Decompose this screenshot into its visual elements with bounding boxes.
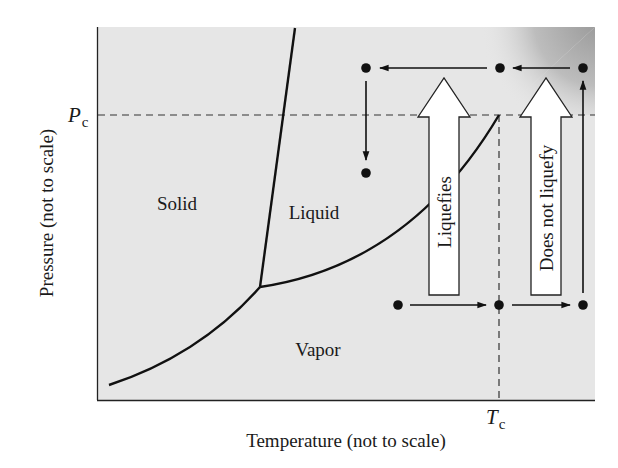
- does-not-liquefy-label: Does not liquefy: [536, 144, 557, 271]
- y-axis-label: Pressure (not to scale): [36, 129, 58, 297]
- path-dot: [361, 168, 371, 178]
- x-axis-label: Temperature (not to scale): [246, 430, 446, 452]
- path-dot: [494, 300, 504, 310]
- region-vapor-label: Vapor: [295, 339, 341, 360]
- tc-marker: Tc: [486, 405, 506, 432]
- liquefies-label: Liquefies: [434, 176, 455, 248]
- pc-marker: Pc: [67, 103, 89, 130]
- path-dot: [578, 63, 588, 73]
- path-dot: [393, 300, 403, 310]
- path-dot: [361, 63, 371, 73]
- region-liquid-label: Liquid: [289, 202, 340, 223]
- region-solid-label: Solid: [157, 193, 198, 214]
- path-dot: [578, 300, 588, 310]
- phase-diagram: Liquefies Does not liquefy Solid Liquid …: [0, 0, 618, 468]
- path-dot: [495, 63, 505, 73]
